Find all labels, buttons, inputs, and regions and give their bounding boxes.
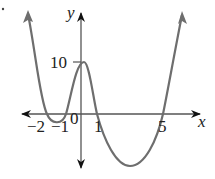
x-tick-label-5: 5 — [158, 118, 167, 135]
graph-canvas — [0, 0, 215, 179]
x-tick-label-neg1: −1 — [51, 118, 69, 135]
x-axis-label: x — [198, 113, 206, 130]
corner-mark — [2, 8, 4, 10]
y-tick-label-10: 10 — [50, 54, 67, 71]
polynomial-curve — [28, 14, 182, 166]
curve-arrow-left-icon — [23, 10, 33, 23]
x-tick-label-1: 1 — [94, 118, 103, 135]
x-tick-label-neg2: −2 — [27, 118, 45, 135]
curve-arrow-right-icon — [178, 11, 187, 24]
y-axis-label: y — [67, 4, 75, 21]
origin-label: 0 — [70, 110, 79, 127]
